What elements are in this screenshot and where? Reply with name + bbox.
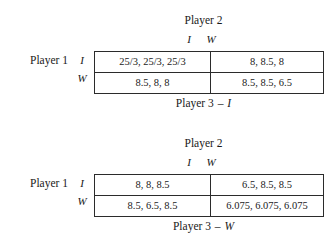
payoff-matrix-player3-I: Player 2 I W Player 1 I W 25/3, 25/3, 25… [0,0,328,124]
payoff-cell-I-I: 25/3, 25/3, 25/3 [95,52,211,73]
caption-dash: – [214,220,222,232]
payoff-cell-W-W: 6.075, 6.075, 6.075 [211,196,324,217]
caption-player-label: Player 3 [176,97,214,109]
table-row: 25/3, 25/3, 25/3 8, 8.5, 8 [95,52,324,73]
payoff-cell-I-I: 8, 8, 8.5 [95,175,211,196]
payoff-cell-I-W: 8, 8.5, 8 [211,52,324,73]
caption-dash: – [217,97,225,109]
row-player-label: Player 1 [30,177,68,190]
row-strategy-label-2: W [76,195,88,208]
column-strategy-label-1: I [180,33,198,46]
row-strategy-label-1: I [76,177,88,190]
column-strategy-header: I W [94,156,313,169]
column-strategy-header: I W [94,33,313,46]
row-player-label: Player 1 [30,54,68,67]
column-strategy-label-2: W [202,156,220,169]
payoff-matrix-player3-W: Player 2 I W Player 1 I W 8, 8, 8.5 6.5,… [0,123,328,247]
table-row: 8, 8, 8.5 6.5, 8.5, 8.5 [95,175,324,196]
matrix-caption: Player 3 – I [94,96,313,110]
row-strategy-label-1: I [76,54,88,67]
caption-strategy-label: I [227,97,231,109]
payoff-cell-I-W: 6.5, 8.5, 8.5 [211,175,324,196]
column-player-label: Player 2 [94,14,313,27]
payoff-cell-W-W: 8.5, 8.5, 6.5 [211,73,324,94]
payoff-cell-W-I: 8.5, 6.5, 8.5 [95,196,211,217]
column-player-label: Player 2 [94,137,313,150]
column-strategy-label-1: I [180,156,198,169]
payoff-cell-W-I: 8.5, 8, 8 [95,73,211,94]
row-strategy-label-2: W [76,72,88,85]
caption-player-label: Player 3 [173,220,211,232]
matrix-caption: Player 3 – W [94,219,313,233]
caption-strategy-label: W [224,220,234,232]
table-row: 8.5, 8, 8 8.5, 8.5, 6.5 [95,73,324,94]
column-strategy-label-2: W [202,33,220,46]
payoff-table: 8, 8, 8.5 6.5, 8.5, 8.5 8.5, 6.5, 8.5 6.… [94,174,324,217]
table-row: 8.5, 6.5, 8.5 6.075, 6.075, 6.075 [95,196,324,217]
payoff-table: 25/3, 25/3, 25/3 8, 8.5, 8 8.5, 8, 8 8.5… [94,51,324,94]
